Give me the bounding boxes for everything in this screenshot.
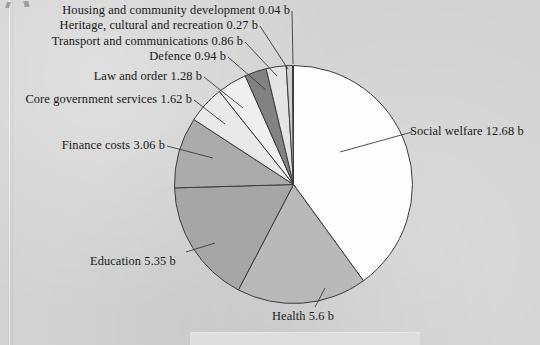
pie-label-health: Health 5.6 b (272, 310, 334, 323)
pie-label-social-welfare: Social welfare 12.68 b (410, 125, 524, 138)
pie-label-law-and-order: Law and order 1.28 b (94, 70, 202, 83)
chart-page: Social welfare 12.68 bHealth 5.6 bEducat… (0, 0, 540, 345)
pie-label-heritage-cultural-and-recreation: Heritage, cultural and recreation 0.27 b (60, 19, 258, 32)
pie-label-housing-and-community-development: Housing and community development 0.04 b (62, 4, 290, 17)
pie-label-defence: Defence 0.94 b (149, 50, 226, 63)
pie-slices (175, 65, 413, 303)
pie-label-housing-and-community-development-leader-line (292, 11, 293, 64)
pie-label-finance-costs: Finance costs 3.06 b (62, 139, 165, 152)
pie-chart (0, 0, 540, 345)
pie-label-transport-and-communications: Transport and communications 0.86 b (52, 35, 243, 48)
pie-label-core-government-services: Core government services 1.62 b (25, 93, 192, 106)
pie-label-education: Education 5.35 b (90, 255, 176, 268)
